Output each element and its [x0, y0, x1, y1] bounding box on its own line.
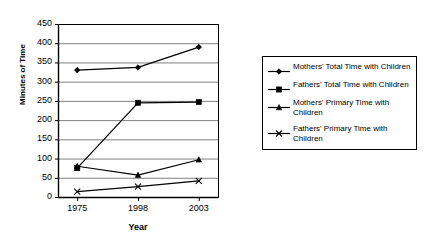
legend-item: Fathers' Primary Time with Children [267, 124, 412, 144]
legend-item-label: Fathers' Total Time with Children [293, 80, 412, 90]
x-tick-label: 1975 [54, 203, 100, 213]
legend-marker-triangle-icon [267, 99, 291, 110]
x-tick-label: 1998 [115, 203, 161, 213]
line-chart: Minutes of Time 050100150200250300350400… [0, 0, 431, 246]
legend-marker-square-icon [267, 81, 291, 92]
legend-item: Mothers' Primary Time with Children [267, 98, 412, 118]
data-point-marker-diamond [276, 69, 282, 75]
legend-marker-x-icon [267, 125, 291, 136]
x-tick-label: 2003 [176, 203, 222, 213]
legend-item: Mothers' Total Time with Children [267, 62, 412, 74]
legend-item: Fathers' Total Time with Children [267, 80, 412, 92]
legend-item-label: Mothers' Total Time with Children [293, 62, 412, 72]
legend-marker-diamond-icon [267, 63, 291, 74]
data-point-marker-square [276, 87, 281, 92]
chart-legend: Mothers' Total Time with ChildrenFathers… [262, 56, 417, 150]
x-axis-title: Year [58, 222, 218, 232]
legend-item-label: Mothers' Primary Time with Children [293, 98, 412, 118]
legend-item-label: Fathers' Primary Time with Children [293, 124, 412, 144]
